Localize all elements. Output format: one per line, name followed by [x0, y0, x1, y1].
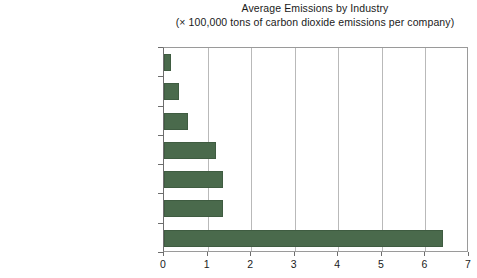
y-axis-tick — [158, 76, 163, 77]
x-axis-tick — [381, 252, 382, 256]
x-axis-label: 1 — [197, 258, 217, 270]
x-axis-tick — [337, 252, 338, 256]
chart-title: Average Emissions by Industry — [150, 2, 477, 16]
x-axis-label: 5 — [371, 258, 391, 270]
x-axis-tick — [468, 252, 469, 256]
y-axis-tick — [158, 47, 163, 48]
x-axis-tick — [163, 252, 164, 256]
chart-title-block: Average Emissions by Industry (× 100,000… — [150, 2, 477, 29]
x-axis-label: 3 — [284, 258, 304, 270]
y-axis-tick — [158, 193, 163, 194]
y-axis-tick — [158, 135, 163, 136]
y-axis-category-labels: HealthcarePersonal and household goodsRe… — [0, 47, 477, 252]
x-axis-label: 7 — [458, 258, 477, 270]
y-axis-tick — [158, 164, 163, 165]
x-axis-tick — [250, 252, 251, 256]
x-axis-label: 2 — [240, 258, 260, 270]
x-axis-label: 0 — [153, 258, 173, 270]
x-axis-tick — [207, 252, 208, 256]
chart-subtitle: (× 100,000 tons of carbon dioxide emissi… — [150, 16, 477, 30]
y-axis-tick — [158, 106, 163, 107]
x-axis-tick — [424, 252, 425, 256]
y-axis-tick — [158, 223, 163, 224]
x-axis-tick — [294, 252, 295, 256]
x-axis-label: 6 — [414, 258, 434, 270]
x-axis-label: 4 — [327, 258, 347, 270]
x-axis: 01234567 — [163, 252, 468, 278]
bar-chart-figure: Average Emissions by Industry (× 100,000… — [0, 0, 477, 278]
